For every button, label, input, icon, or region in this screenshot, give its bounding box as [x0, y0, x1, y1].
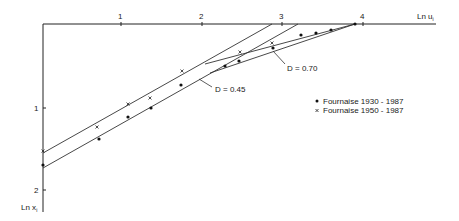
data-point [314, 31, 317, 34]
fit-line-1930-d070 [210, 24, 355, 73]
data-point [353, 22, 356, 25]
annotation-label: D = 0.45 [215, 85, 246, 94]
data-point [271, 42, 274, 45]
y-axis-title: Ln xi [21, 203, 37, 213]
data-point [271, 46, 274, 49]
x-axis-title-main: Ln u [417, 12, 433, 21]
data-point [181, 70, 184, 73]
data-point [239, 51, 242, 54]
data-point [149, 106, 152, 109]
y-tick-label: 2 [34, 186, 39, 195]
data-point [97, 137, 100, 140]
series-1930-1987 [41, 22, 356, 166]
x-tick-label: 2 [199, 12, 204, 21]
y-tick-label: 1 [34, 104, 39, 113]
data-point [96, 126, 99, 129]
data-point [329, 28, 332, 31]
legend-label-1930: Fournaise 1930 - 1987 [323, 97, 404, 106]
data-point [149, 97, 152, 100]
chart: 1 2 3 4 1 2 Ln ui Ln xi D = 0.45 D = 0.7… [0, 0, 459, 221]
y-axis-title-sub: i [36, 207, 37, 213]
x-tick-label: 4 [360, 12, 365, 21]
x-axis-title-sub: i [433, 16, 434, 22]
annotation-label: D = 0.70 [287, 64, 318, 73]
legend-cross-icon [316, 109, 319, 112]
x-tick-label: 1 [118, 12, 123, 21]
data-point [126, 115, 129, 118]
legend: Fournaise 1930 - 1987 Fournaise 1950 - 1… [316, 97, 405, 115]
y-axis-title-main: Ln x [21, 203, 36, 212]
fit-lines [43, 24, 355, 168]
series-1950-1987 [42, 42, 274, 153]
data-point [223, 64, 226, 67]
fit-line-1930-d045 [43, 24, 298, 168]
data-point [299, 33, 302, 36]
data-point [179, 83, 182, 86]
x-tick-label: 3 [279, 12, 284, 21]
legend-dot-icon [316, 100, 319, 103]
axes [43, 22, 436, 212]
data-point [237, 59, 240, 62]
annotation-leader [273, 51, 285, 64]
x-axis-title: Ln ui [417, 12, 434, 22]
annotation-leader [199, 79, 212, 87]
legend-label-1950: Fournaise 1950 - 1987 [323, 106, 404, 115]
data-point [41, 163, 44, 166]
annotation-d045: D = 0.45 [199, 79, 246, 94]
annotation-d070: D = 0.70 [273, 51, 318, 73]
